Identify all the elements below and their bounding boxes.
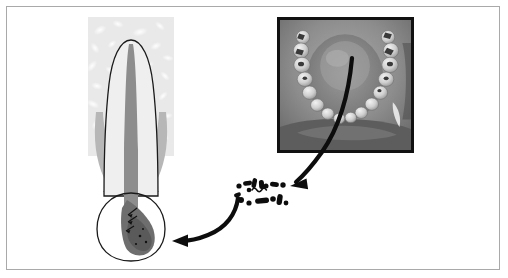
arrow-bacteria-to-apex (172, 198, 238, 247)
figure-root (0, 0, 508, 278)
arrows-layer (0, 0, 508, 278)
arrow-photo-to-bacteria (290, 58, 352, 189)
